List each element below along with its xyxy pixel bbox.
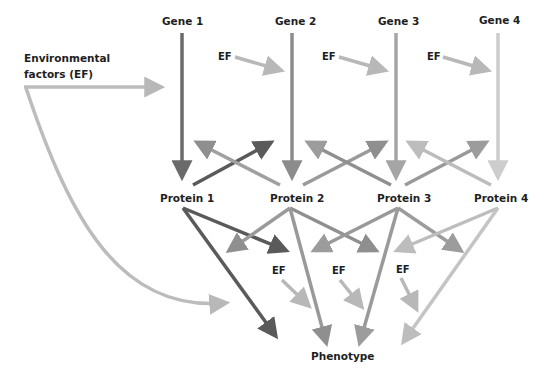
gene-protein-phenotype-diagram: Gene 1 Gene 2 Gene 3 Gene 4 Environmenta…	[0, 0, 545, 377]
arrow-protein1-gene2	[193, 143, 270, 185]
phenotype-label: Phenotype	[311, 351, 374, 362]
arrow-ef-gene3	[339, 57, 384, 70]
protein-2-label: Protein 2	[270, 193, 324, 204]
arrow-protein2-gene3	[303, 143, 384, 185]
arrow-protein2-ef2	[290, 208, 375, 250]
ef-label-gene3: EF	[322, 52, 336, 62]
protein-1-label: Protein 1	[160, 193, 214, 204]
environmental-factors-label: Environmental factors (EF)	[24, 50, 110, 82]
gene-2-label: Gene 2	[275, 16, 316, 27]
ef-label-lower-2: EF	[332, 266, 346, 276]
protein-3-label: Protein 3	[377, 193, 431, 204]
arrow-protein3-gene4	[405, 143, 485, 185]
environmental-factors-line2: factors (EF)	[24, 66, 110, 82]
arrow-protein3-gene2	[309, 143, 391, 185]
ef-label-gene4: EF	[427, 52, 441, 62]
arrow-ef-gene2	[235, 57, 280, 70]
gene-3-label: Gene 3	[378, 16, 419, 27]
arrow-protein4-gene3	[410, 143, 491, 185]
arrow-protein2-left	[230, 208, 290, 250]
ef-label-lower-3: EF	[396, 265, 410, 275]
arrow-protein2-gene1	[198, 143, 280, 185]
arrow-ef-lower-3	[401, 278, 416, 308]
arrow-ef-lower-2	[340, 280, 361, 306]
arrow-protein3-left	[315, 208, 398, 250]
protein-4-label: Protein 4	[474, 193, 528, 204]
arrow-protein3-phenotype	[360, 208, 398, 342]
gene-1-label: Gene 1	[162, 16, 203, 27]
gene-4-label: Gene 4	[479, 15, 520, 26]
ef-label-gene2: EF	[218, 52, 232, 62]
arrow-ef-gene4	[443, 57, 487, 70]
arrow-ef-lower-1	[282, 280, 308, 305]
environmental-factors-line1: Environmental	[24, 50, 110, 66]
arrow-protein2-phenotype	[290, 208, 326, 342]
ef-label-lower-1: EF	[272, 266, 286, 276]
